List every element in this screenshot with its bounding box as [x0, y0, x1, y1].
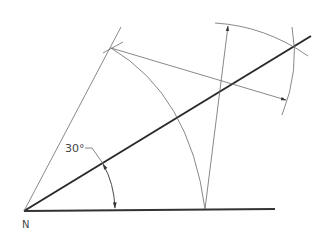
angle-dimension-arc	[103, 164, 115, 208]
thirty-degree-line	[24, 36, 311, 211]
vertex-label-n: N	[22, 220, 29, 230]
angle-label: 30°	[65, 143, 85, 154]
baseline	[24, 209, 275, 211]
cross-tick-mark	[103, 42, 123, 53]
diagonal-arrow-line	[111, 48, 286, 100]
construction-line-left	[24, 27, 121, 211]
geometry-construction-diagram: 30° N	[0, 0, 328, 240]
vertical-arrow-line	[205, 26, 228, 209]
construction-arc-right	[282, 27, 294, 115]
angle-leader-line	[85, 148, 104, 165]
